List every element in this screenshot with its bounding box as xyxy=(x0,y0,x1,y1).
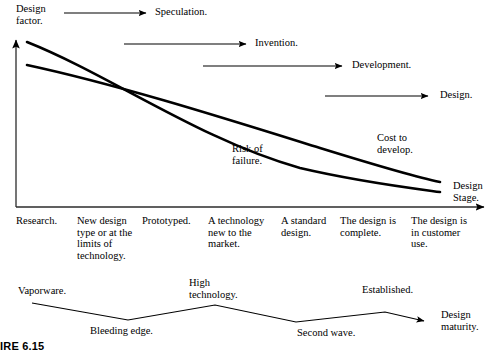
established-label: Established. xyxy=(362,284,413,296)
figure-canvas: Design factor. Design Stage. Speculation… xyxy=(0,0,492,353)
curve-label-risk-of-failure: Risk of failure. xyxy=(232,143,263,166)
figure-caption: IRE 6.15 xyxy=(0,340,44,352)
vaporware-label: Vaporware. xyxy=(18,285,66,297)
design-maturity-zigzag xyxy=(32,303,424,322)
stage-label-prototyped: Prototyped. xyxy=(142,215,204,227)
stage-label-standard-design: A standard design. xyxy=(281,215,339,238)
phase-label-speculation: Speculation. xyxy=(155,6,207,18)
curve-label-cost-to-develop: Cost to develop. xyxy=(377,132,413,155)
phase-label-invention: Invention. xyxy=(255,37,298,49)
design-maturity-label: Design maturity. xyxy=(441,309,479,332)
phase-label-development: Development. xyxy=(352,59,411,71)
second-wave-label: Second wave. xyxy=(297,327,355,339)
phase-label-design: Design. xyxy=(440,89,472,101)
stage-label-design-complete: The design is complete. xyxy=(340,215,408,238)
figure-vector-layer xyxy=(0,0,492,353)
stage-label-technology-new-to-market: A technology new to the market. xyxy=(208,215,274,250)
stage-label-research: Research. xyxy=(16,215,74,227)
stage-label-design-in-customer-use: The design is in customer use. xyxy=(411,215,483,250)
bleeding-edge-label: Bleeding edge. xyxy=(90,325,153,337)
y-axis-title: Design factor. xyxy=(16,3,46,26)
high-technology-label: High technology. xyxy=(189,277,238,300)
stage-label-new-design-type: New design type or at the limits of tech… xyxy=(77,215,139,261)
x-axis-title: Design Stage. xyxy=(453,180,483,203)
